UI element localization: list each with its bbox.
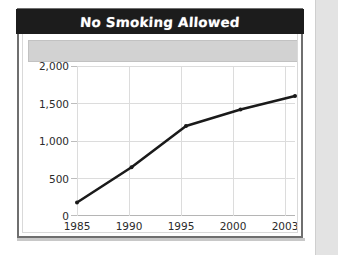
- x-axis-tick-1990: 1990: [116, 220, 143, 232]
- y-axis-tick-1500: 1,500: [39, 98, 69, 110]
- x-axis-tick-1995: 1995: [168, 220, 195, 232]
- y-axis-tick-1000: 1,000: [39, 135, 69, 147]
- data-point-1990: [130, 165, 134, 169]
- chart-card: 2,000 1,500 1,000 500 0: [17, 8, 303, 238]
- chart-plot-area: 2,000 1,500 1,000 500 0: [29, 66, 298, 233]
- series-data-points: [75, 94, 297, 205]
- y-axis-labels: 2,000 1,500 1,000 500 0: [29, 66, 75, 216]
- chart-series-line: [77, 66, 295, 216]
- y-axis-tick-500: 500: [49, 173, 69, 185]
- x-axis-labels: 1985 1990 1995 2000 2003: [77, 218, 295, 233]
- chart-card-shadow: [17, 238, 305, 241]
- series-polyline: [77, 96, 295, 203]
- page-right-margin-band: [315, 0, 338, 255]
- data-point-1995: [184, 124, 188, 128]
- x-axis-tick-2003: 2003: [272, 220, 298, 232]
- chart-card-inner: 2,000 1,500 1,000 500 0: [22, 13, 298, 233]
- page-title: No Smoking Allowed: [80, 14, 241, 30]
- data-point-2003: [293, 94, 297, 98]
- page-background: 2,000 1,500 1,000 500 0: [0, 0, 338, 255]
- chart-title-banner: No Smoking Allowed: [16, 9, 304, 34]
- chart-subtitle-bar: [28, 40, 298, 62]
- data-point-1985: [75, 201, 79, 205]
- data-point-2000: [239, 108, 243, 112]
- x-axis-tick-1985: 1985: [64, 220, 91, 232]
- x-axis-tick-2000: 2000: [220, 220, 247, 232]
